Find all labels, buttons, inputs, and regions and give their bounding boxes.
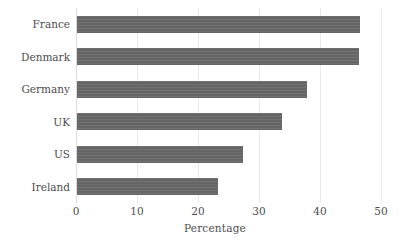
plot-area: FranceDenmarkGermanyUKUSIreland [76,8,381,203]
x-tick-label: 20 [191,206,204,217]
x-tick-label: 30 [252,206,265,217]
bar-chart: FranceDenmarkGermanyUKUSIreland 01020304… [0,0,405,243]
bar [77,81,307,98]
bar-series [76,8,381,203]
bar [77,113,282,130]
bar [77,16,360,33]
x-axis-title-text: Percentage [184,222,246,234]
x-tick-label: 40 [313,206,326,217]
bar [77,48,359,65]
value-axis-tick-labels: 01020304050 [76,206,381,222]
category-label: Germany [21,84,70,95]
category-label: Denmark [21,52,70,63]
category-label: US [54,149,70,160]
category-label: Ireland [32,182,70,193]
bar [77,146,243,163]
bar [77,178,218,195]
category-label: France [33,19,70,30]
x-tick-label: 10 [130,206,143,217]
x-tick-label: 0 [73,206,80,217]
x-axis-title: Percentage [0,222,405,234]
category-label: UK [53,117,70,128]
gridline-50 [381,8,382,203]
x-tick-label: 50 [374,206,387,217]
